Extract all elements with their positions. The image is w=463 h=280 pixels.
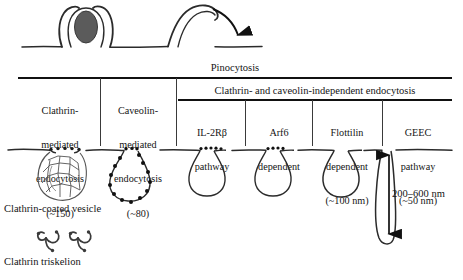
clathrin-coated-pit — [38, 147, 86, 201]
plasma-membrane-seg-3 — [232, 150, 266, 151]
clathrin-coated-vesicle-caption: Clathrin-coated vesicle — [4, 203, 154, 215]
clathrin-triskelion-icon — [37, 230, 91, 252]
plasma-membrane-seg-0 — [8, 149, 50, 150]
arf6-pit — [255, 146, 294, 196]
caveolin-coated-pit — [108, 147, 152, 204]
endocytosis-pathways-figure: Pinocytosis Clathrin- and caveolin-indep… — [0, 0, 463, 280]
clathrin-triskelion-caption: Clathrin triskelion — [4, 256, 154, 268]
il2rb-pit — [189, 146, 226, 196]
plasma-membrane-seg-4 — [298, 150, 334, 151]
plasma-membrane-seg-1 — [86, 150, 124, 151]
flotillin-pit — [323, 150, 362, 197]
plasma-membrane-seg-6 — [396, 150, 452, 151]
dimension-label: 200–600 nm — [392, 188, 460, 200]
membrane-illustration-layer — [0, 0, 463, 280]
plasma-membrane-seg-2 — [160, 150, 200, 151]
